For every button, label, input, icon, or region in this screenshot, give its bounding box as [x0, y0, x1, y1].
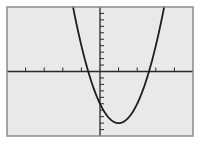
- graph-screen: [0, 0, 200, 145]
